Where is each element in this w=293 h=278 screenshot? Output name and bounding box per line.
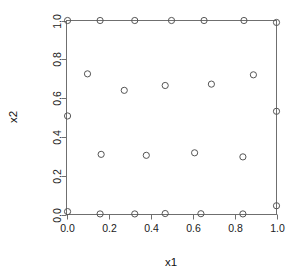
x-axis-title: x1 <box>165 256 177 268</box>
y-tick-label: 0.2 <box>51 169 63 184</box>
x-tick-label: 1.0 <box>270 222 285 234</box>
y-tick-label: 1.0 <box>51 14 63 29</box>
y-tick-label: 0.6 <box>51 91 63 106</box>
y-tick-label: 0.8 <box>51 52 63 67</box>
chart-canvas: 0.00.20.40.60.81.0 0.00.20.40.60.81.0 x1… <box>0 0 293 278</box>
scatter-plot-figure: 0.00.20.40.60.81.0 0.00.20.40.60.81.0 x1… <box>0 0 293 278</box>
y-tick-label: 0.4 <box>51 130 63 145</box>
y-tick-label: 0.0 <box>51 208 63 223</box>
x-tick-label: 0.8 <box>228 222 243 234</box>
x-tick-label: 0.2 <box>102 222 117 234</box>
chart-background <box>0 0 293 278</box>
x-tick-label: 0.4 <box>144 222 159 234</box>
x-tick-label: 0.6 <box>186 222 201 234</box>
y-axis-title: x2 <box>7 111 19 123</box>
